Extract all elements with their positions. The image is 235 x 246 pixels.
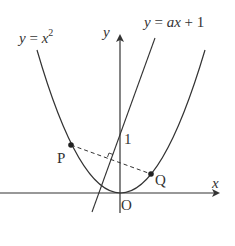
line-equation-label: y = ax + 1 [142,14,204,30]
y-axis-label: y [101,24,110,40]
line-y-ax-plus-1 [92,38,155,212]
point-p-dot [68,142,74,148]
coordinate-plot: y = x2 y y = ax + 1 1 P Q x O [0,0,235,246]
intercept-label: 1 [124,131,132,147]
point-q-dot [148,171,154,177]
parabola-equation-label: y = x2 [17,27,53,46]
segment-pq [71,145,151,174]
origin-label: O [121,197,132,213]
point-q-label: Q [155,172,166,188]
x-axis-label: x [211,175,219,191]
parabola-curve [37,50,205,193]
point-p-label: P [57,150,65,166]
diagram-canvas: y = x2 y y = ax + 1 1 P Q x O [0,0,235,246]
